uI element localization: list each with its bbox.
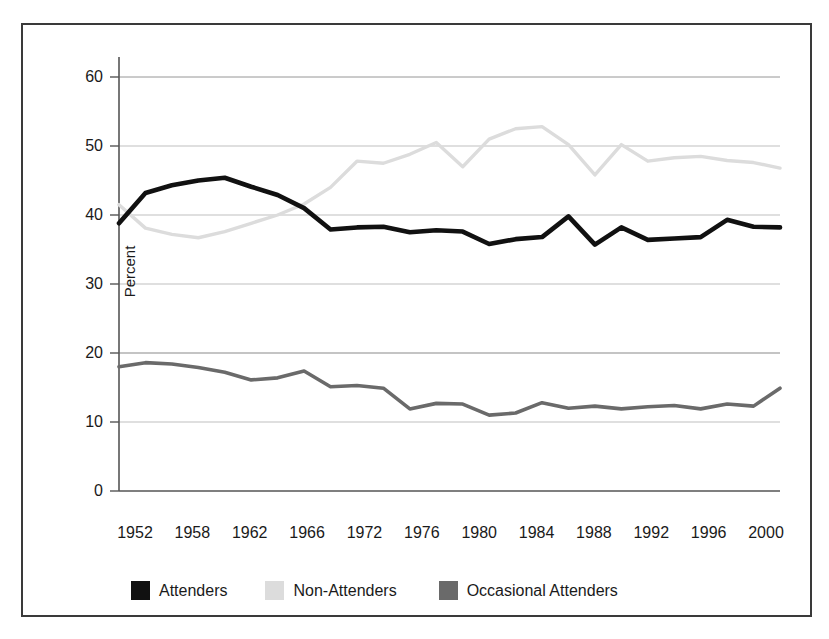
x-tick-label: 1980 — [449, 525, 509, 541]
y-tick-label: 60 — [57, 69, 103, 85]
legend-swatch-icon — [439, 581, 458, 600]
x-tick-label: 1984 — [507, 525, 567, 541]
y-tick-label: 30 — [57, 276, 103, 292]
x-tick-label: 1988 — [564, 525, 624, 541]
x-tick-label: 1996 — [679, 525, 739, 541]
x-tick-label: 2000 — [736, 525, 796, 541]
legend-item[interactable]: Attenders — [131, 581, 227, 600]
y-tick-label: 50 — [57, 138, 103, 154]
x-tick-label: 1952 — [105, 525, 165, 541]
legend-swatch-icon — [131, 581, 150, 600]
x-tick-label: 1958 — [162, 525, 222, 541]
figure-container: Percent 0102030405060 195219581962196619… — [0, 0, 829, 639]
y-tick-label: 20 — [57, 345, 103, 361]
axes-group — [119, 57, 780, 491]
series-line-occasional-attenders — [119, 363, 780, 415]
x-tick-label: 1966 — [277, 525, 337, 541]
chart-frame: Percent 0102030405060 195219581962196619… — [21, 23, 812, 617]
y-tick-marks-group — [110, 77, 119, 491]
chart-legend: AttendersNon-AttendersOccasional Attende… — [131, 581, 656, 600]
y-tick-label: 10 — [57, 414, 103, 430]
y-tick-label: 0 — [57, 483, 103, 499]
x-tick-label: 1962 — [220, 525, 280, 541]
x-tick-label: 1992 — [621, 525, 681, 541]
legend-label: Attenders — [159, 582, 227, 600]
legend-item[interactable]: Occasional Attenders — [439, 581, 618, 600]
legend-swatch-icon — [265, 581, 284, 600]
y-tick-label: 40 — [57, 207, 103, 223]
x-tick-label: 1976 — [392, 525, 452, 541]
legend-label: Occasional Attenders — [467, 582, 618, 600]
data-series-group — [119, 127, 780, 415]
series-line-non-attenders — [119, 127, 780, 238]
y-axis-title: Percent — [121, 212, 138, 332]
legend-label: Non-Attenders — [293, 582, 396, 600]
legend-item[interactable]: Non-Attenders — [265, 581, 396, 600]
x-tick-label: 1972 — [334, 525, 394, 541]
